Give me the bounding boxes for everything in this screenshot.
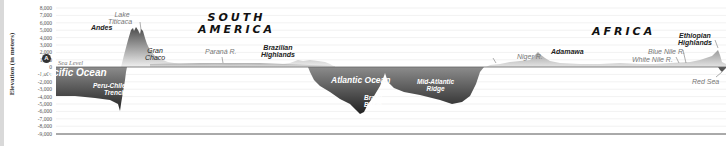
y-tick: -9,000 (22, 131, 52, 137)
y-tick: -2,000 (22, 79, 52, 85)
brazilian-line1: Brazilian (261, 44, 295, 51)
south-america-line1: SOUTH (198, 12, 275, 24)
profile-marker-a: A (42, 54, 51, 63)
y-tick: 5,000 (22, 27, 52, 33)
y-axis-label: Elevation (in meters) (8, 24, 16, 104)
atlantic-ocean-label: Atlantic Ocean (331, 76, 391, 85)
y-tick: -5,000 (22, 101, 52, 107)
gran-chaco-line2: Chaco (145, 54, 165, 61)
elevation-profile-chart: Elevation (in meters) 8,000 7,000 6,000 … (0, 0, 726, 146)
peru-chile-line2: Trench (93, 90, 126, 97)
ethiopian-line2: Highlands (678, 39, 712, 46)
y-tick: -6,000 (22, 108, 52, 114)
ethiopian-highlands-label: Ethiopian Highlands (678, 32, 712, 47)
gran-chaco-label: Gran Chaco (145, 47, 165, 62)
brazilian-line2: Highlands (261, 51, 295, 58)
titicaca-line1: Lake (112, 11, 132, 18)
y-tick: -7,000 (22, 116, 52, 122)
y-tick: -3,000 (22, 86, 52, 92)
red-sea-area (718, 67, 726, 72)
y-tick: -4,000 (22, 94, 52, 100)
red-sea-label: Red Sea (692, 78, 719, 85)
y-tick: 4,000 (22, 35, 52, 41)
guinea-basin-label: Guinea Basin (476, 91, 498, 105)
brazilian-highlands-label: Brazilian Highlands (261, 44, 295, 59)
y-tick: 6,000 (22, 20, 52, 26)
brazil-basin-line2: Basin (364, 102, 382, 109)
y-tick: 8,000 (22, 5, 52, 11)
y-tick: -8,000 (22, 123, 52, 129)
parana-river-label: Paraná R. (205, 48, 237, 55)
region-africa: AFRICA (592, 26, 655, 38)
titicaca-line2: Titicaca (108, 18, 132, 25)
y-tick: 3,000 (22, 42, 52, 48)
pacific-ocean-label: Pacific Ocean (41, 68, 107, 79)
blue-nile-label: Blue Nile R. (648, 48, 685, 55)
ethiopian-line1: Ethiopian (678, 32, 712, 39)
peru-chile-trench-label: Peru-Chile Trench (93, 83, 126, 97)
niger-river-label: Niger R. (517, 53, 543, 60)
brazil-basin-label: Brazil Basin (364, 95, 382, 109)
adamawa-label: Adamawa (551, 48, 584, 55)
mid-atlantic-ridge-label: Mid-Atlantic Ridge (417, 79, 454, 93)
lake-titicaca-label: Lake Titicaca (112, 11, 132, 26)
white-nile-label: White Nile R. (632, 56, 673, 63)
mid-atlantic-line2: Ridge (417, 86, 454, 93)
south-america-line2: AMERICA (198, 24, 275, 36)
gran-chaco-line1: Gran (145, 47, 165, 54)
guinea-line2: Basin (476, 98, 498, 105)
y-tick: 7,000 (22, 12, 52, 18)
sea-level-label: Sea Level (58, 60, 83, 67)
region-south-america: SOUTH AMERICA (198, 12, 275, 35)
